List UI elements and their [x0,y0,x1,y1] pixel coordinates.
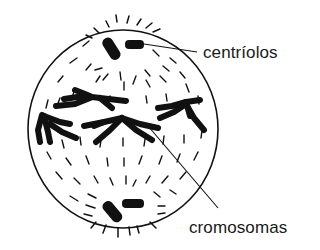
label-cromosomas: cromosomas [189,219,287,236]
centriole-pair-top [100,36,144,62]
label-centriolos: centríolos [203,44,278,61]
centriole [122,199,144,208]
mitosis-diagram: centríolos cromosomas [0,0,320,250]
cell-illustration [0,0,320,250]
chromosome [38,115,76,142]
centriole [125,40,144,49]
chromosome [84,118,158,142]
centriole-pair-bottom [100,199,144,224]
leader-line-centriolos [144,44,197,52]
chromosome [56,90,126,108]
chromosome [158,100,204,130]
centriole [100,36,122,62]
chromosomes [38,90,204,142]
centriole [100,199,124,224]
spindle-fibers [46,41,202,216]
